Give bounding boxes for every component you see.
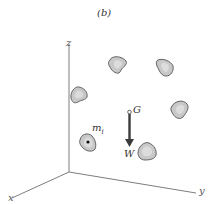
- weight-arrow-head: [125, 139, 134, 147]
- particle-mass-subscript: i: [101, 128, 103, 136]
- weight-label: W: [124, 149, 134, 159]
- particle-mass-label: mi: [92, 123, 104, 136]
- particle-point: [86, 140, 89, 143]
- panel-label: (b): [97, 8, 111, 18]
- particle-blob: [138, 143, 156, 160]
- y-axis: [69, 172, 196, 193]
- x-axis-label: x: [8, 193, 14, 203]
- particle-blob-mi: [80, 134, 96, 151]
- particle-blob: [109, 57, 127, 73]
- center-of-gravity-point: [128, 110, 132, 114]
- y-axis-label: y: [199, 186, 205, 196]
- particle-blob: [71, 87, 87, 103]
- z-axis-label: z: [66, 38, 71, 48]
- mass-system-diagram: [0, 0, 208, 204]
- weight-vector: [125, 110, 134, 147]
- particle-blob: [156, 59, 173, 76]
- center-of-gravity-label: G: [133, 105, 141, 115]
- particle-blob: [171, 101, 188, 118]
- x-axis: [12, 172, 69, 198]
